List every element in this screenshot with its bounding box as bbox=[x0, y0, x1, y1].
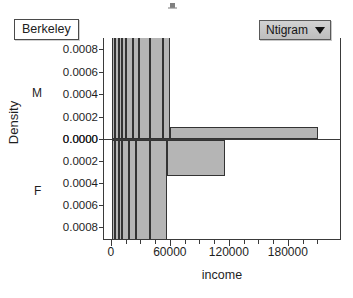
y-axis-tick bbox=[99, 161, 103, 162]
x-axis-tick-label: 60000 bbox=[153, 246, 186, 259]
histogram-bar bbox=[139, 38, 149, 139]
y-axis-tick bbox=[99, 139, 103, 140]
histogram-bar bbox=[150, 140, 167, 239]
plot-area bbox=[103, 38, 341, 240]
histogram-panel-female bbox=[104, 140, 340, 239]
x-axis-minor-tick bbox=[199, 240, 200, 244]
x-axis-minor-tick bbox=[317, 240, 318, 244]
histogram-bar bbox=[163, 38, 169, 139]
x-axis-minor-tick bbox=[185, 240, 186, 244]
x-axis-minor-tick bbox=[155, 240, 156, 244]
y-axis-title: Density bbox=[6, 83, 21, 163]
histogram-bar bbox=[167, 140, 225, 176]
y-axis-tick bbox=[99, 72, 103, 73]
histogram-panel-male bbox=[104, 38, 340, 139]
y-axis-tick-labels: 0.00080.00060.00040.00020.00000.00000.00… bbox=[30, 38, 98, 240]
x-axis-line bbox=[103, 239, 341, 240]
y-axis-tick-label-male: 0.0004 bbox=[63, 88, 98, 100]
x-axis-minor-tick bbox=[214, 240, 215, 244]
y-axis-tick bbox=[99, 94, 103, 95]
y-axis-tick bbox=[99, 117, 103, 118]
group-label-text: Berkeley bbox=[22, 22, 71, 36]
y-axis-tick-label-male: 0.0002 bbox=[63, 111, 98, 123]
y-axis-tick-label-female: 0.0008 bbox=[63, 221, 98, 233]
y-axis-tick bbox=[99, 183, 103, 184]
histogram-bar bbox=[150, 38, 164, 139]
y-axis-tick-label-female: 0.0006 bbox=[63, 199, 98, 211]
y-axis-tick-label-female: 0.0002 bbox=[63, 155, 98, 167]
histogram-bar bbox=[136, 140, 150, 239]
y-axis-tick bbox=[99, 205, 103, 206]
histogram-bar bbox=[126, 38, 133, 139]
x-axis-minor-tick bbox=[303, 240, 304, 244]
x-axis-tick-label: 120000 bbox=[209, 246, 249, 259]
y-axis-tick-label-male: 0.0006 bbox=[63, 66, 98, 78]
y-axis-tick-label-female: 0.0000 bbox=[63, 133, 98, 145]
histogram-bar bbox=[122, 140, 129, 239]
histogram-bar bbox=[170, 127, 318, 139]
x-axis-tick-label: 0 bbox=[108, 246, 115, 259]
x-axis-minor-tick bbox=[258, 240, 259, 244]
plot-type-dropdown[interactable]: Ntigram bbox=[259, 20, 331, 40]
x-axis-minor-tick bbox=[126, 240, 127, 244]
x-axis-tick-labels: 060000120000180000 bbox=[103, 246, 341, 262]
histogram-bar bbox=[133, 38, 140, 139]
x-axis-minor-tick bbox=[273, 240, 274, 244]
histogram-bar bbox=[129, 140, 136, 239]
x-axis-tick-label: 180000 bbox=[268, 246, 308, 259]
y-axis-tick-label-female: 0.0004 bbox=[63, 177, 98, 189]
plot-type-dropdown-label: Ntigram bbox=[266, 23, 308, 37]
histogram-plot-window: Berkeley Ntigram Density M F 0.00080.000… bbox=[0, 0, 353, 298]
group-label-box[interactable]: Berkeley bbox=[14, 19, 79, 40]
image-artifact-speck-shadow bbox=[168, 7, 177, 9]
x-axis-minor-tick bbox=[140, 240, 141, 244]
y-axis-tick bbox=[99, 227, 103, 228]
x-axis-title: income bbox=[103, 268, 341, 282]
y-axis-tick bbox=[99, 49, 103, 50]
x-axis-minor-tick bbox=[244, 240, 245, 244]
y-axis-tick-label-male: 0.0008 bbox=[63, 43, 98, 55]
chevron-down-icon bbox=[315, 27, 325, 34]
